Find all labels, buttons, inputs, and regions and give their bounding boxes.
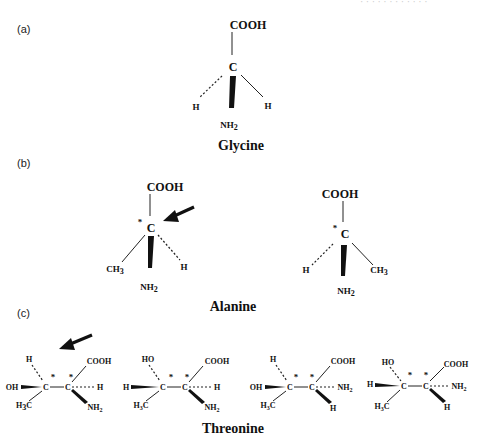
c2-wedge-group: NH2: [205, 403, 220, 413]
chiral-star: *: [138, 217, 143, 227]
threonine-isomer-1: H OH * * C C COOH H H3C NH2: [6, 355, 112, 413]
glycine-dash-bond: [200, 76, 222, 97]
chiral-star: *: [310, 372, 315, 382]
chiral-star: *: [185, 372, 190, 382]
threonine-name: Threonine: [202, 421, 264, 436]
dash-bond: [32, 365, 43, 381]
dash-bond: [149, 365, 160, 381]
wedge-bond: [71, 389, 88, 404]
chiral-star: *: [294, 372, 299, 382]
dash-bond: [276, 365, 287, 381]
panel-b-alanine: (b) COOH * C CH3 H NH2 COOH * C: [17, 157, 388, 314]
c2-wedge-group: H: [444, 403, 451, 412]
alanine-right-wedge-bond: [341, 245, 347, 276]
alanine-left-ch3: CH3: [106, 264, 124, 276]
chiral-star: *: [424, 370, 429, 380]
c1-up-group: HO: [142, 355, 154, 364]
panel-c-threonine: (c) H OH * * C C COOH H H3C NH2: [6, 307, 469, 436]
h3c-group: H3C: [374, 402, 389, 412]
c2-dash-group: NH2: [452, 382, 467, 392]
glycine-bond-right: [241, 75, 263, 97]
chiral-star: *: [408, 370, 413, 380]
panel-a-label: (a): [17, 23, 30, 35]
alanine-left-bond-ch3: [122, 235, 145, 262]
glycine-h-right: H: [264, 101, 271, 111]
glycine-cooh: COOH: [230, 18, 267, 32]
chiral-star: *: [51, 372, 56, 382]
c2-dash-group: H: [97, 383, 104, 392]
alanine-left-nh2: NH2: [140, 282, 158, 294]
c1: C: [160, 383, 166, 392]
bond-cooh: [316, 366, 330, 382]
arrow-icon: [59, 335, 92, 350]
header-fragment: · · · · · · · · · · · ·: [360, 0, 427, 7]
c2-up-group: COOH: [87, 357, 112, 366]
c1-wedge-group: H: [123, 383, 130, 392]
wedge-bond: [429, 388, 446, 403]
c2: C: [423, 382, 429, 391]
chiral-star: *: [169, 372, 174, 382]
c1-up-group: HO: [382, 358, 394, 367]
alanine-name: Alanine: [210, 299, 257, 314]
alanine-right-ch3: CH3: [370, 265, 388, 277]
panel-c-label: (c): [17, 307, 30, 319]
c1-wedge-group: OH: [250, 383, 263, 392]
c1: C: [287, 383, 293, 392]
c2-wedge-group: H: [330, 404, 337, 413]
alanine-left-isomer: COOH * C CH3 H NH2: [106, 180, 194, 294]
c2-up-group: COOH: [444, 360, 469, 369]
alanine-left-h: H: [180, 262, 187, 272]
alanine-right-c: C: [341, 227, 350, 241]
alanine-left-cooh: COOH: [147, 180, 184, 194]
c2: C: [309, 383, 315, 392]
alanine-right-isomer: COOH * C H CH3 NH2: [302, 187, 387, 298]
threonine-isomer-3: H OH * * C C COOH NH2 H3C H: [250, 355, 356, 413]
c1: C: [401, 382, 407, 391]
alanine-right-h: H: [302, 265, 309, 275]
arrow-icon: [163, 207, 194, 222]
alanine-left-dash-bond: [158, 235, 180, 260]
bond-ch3: [146, 391, 159, 401]
c2: C: [182, 383, 188, 392]
glycine-nh2: NH2: [220, 120, 238, 132]
amino-acid-stereochemistry-figure: · · · · · · · · · · · · (a) COOH C H H N…: [0, 0, 484, 444]
glycine-wedge-bond: [229, 76, 236, 108]
wedge-bond: [131, 385, 159, 389]
c2-wedge-group: NH2: [88, 403, 103, 413]
panel-b-label: (b): [17, 157, 30, 169]
bond-ch3: [387, 390, 400, 402]
alanine-right-nh2: NH2: [337, 286, 355, 298]
h3c-group: H3C: [16, 401, 32, 412]
alanine-right-dash-bond: [312, 244, 333, 265]
c1: C: [43, 383, 49, 392]
alanine-right-cooh: COOH: [322, 187, 359, 201]
h3c-group: H3C: [133, 401, 148, 411]
c2-up-group: COOH: [205, 357, 230, 366]
c1-wedge-group: OH: [6, 383, 19, 392]
threonine-isomer-4: HO H * * C C COOH NH2 H3C H: [367, 358, 469, 412]
h3c-group: H3C: [260, 401, 275, 411]
bond-cooh: [189, 366, 203, 382]
c1-wedge-group: H: [367, 380, 374, 389]
threonine-isomer-2: HO H * * C C COOH H H3C NH2: [123, 355, 230, 413]
glycine-c: C: [229, 60, 238, 74]
chiral-star: *: [333, 223, 338, 233]
c1-up-group: H: [26, 355, 33, 364]
alanine-left-wedge-bond: [148, 236, 154, 268]
c2-dash-group: NH2: [338, 383, 353, 393]
panel-a-glycine: (a) COOH C H H NH2 Glycine: [17, 18, 272, 153]
c2: C: [65, 383, 71, 392]
c2-dash-group: H: [214, 383, 221, 392]
c1-up-group: H: [270, 355, 277, 364]
glycine-name: Glycine: [218, 138, 264, 153]
bond-ch3: [273, 391, 286, 401]
bond-cooh: [72, 366, 86, 382]
alanine-left-c: C: [147, 221, 156, 235]
wedge-bond: [265, 385, 286, 389]
wedge-bond: [375, 383, 400, 387]
glycine-h-left: H: [192, 102, 199, 112]
bond-ch3: [29, 391, 42, 401]
bond-cooh: [430, 367, 444, 381]
wedge-bond: [188, 389, 205, 404]
dash-bond: [390, 367, 401, 381]
